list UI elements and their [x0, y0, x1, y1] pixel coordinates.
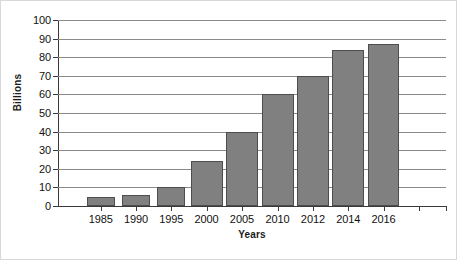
- x-axis-tick-mark: [384, 206, 385, 211]
- x-axis-tick-mark: [313, 206, 314, 211]
- x-axis-tick-mark: [171, 206, 172, 211]
- bar-chart-figure: Billions 0102030405060708090100 19851990…: [0, 0, 457, 260]
- bar: [157, 187, 185, 206]
- plot-area: [58, 20, 446, 206]
- bar: [297, 76, 329, 206]
- bar: [87, 197, 115, 206]
- x-axis-tick-mark: [419, 206, 420, 211]
- gridline: [58, 39, 446, 40]
- bar: [191, 161, 223, 206]
- x-axis-title: Years: [58, 229, 446, 240]
- x-axis-tick-mark: [278, 206, 279, 211]
- y-axis-tick-label: 100: [5, 14, 51, 26]
- x-axis-tick-mark: [101, 206, 102, 211]
- y-axis-tick-label: 70: [5, 70, 51, 82]
- x-axis-line: [58, 206, 447, 207]
- y-axis-tick-label: 40: [5, 126, 51, 138]
- bar: [262, 94, 294, 206]
- x-axis-tick-label: 2016: [371, 213, 395, 225]
- y-axis-tick-label: 90: [5, 33, 51, 45]
- y-axis-tick-label: 50: [5, 107, 51, 119]
- gridline: [58, 20, 446, 21]
- y-axis-tick-label: 20: [5, 163, 51, 175]
- x-axis-tick-mark: [136, 206, 137, 211]
- x-axis-tick-label: 2010: [266, 213, 290, 225]
- y-axis-tick-label: 60: [5, 88, 51, 100]
- bar: [332, 50, 364, 206]
- x-axis-tick-mark: [242, 206, 243, 211]
- x-axis-tick-mark: [207, 206, 208, 211]
- y-axis-tick-label: 10: [5, 181, 51, 193]
- bar: [368, 44, 400, 206]
- x-axis-tick-label: 2014: [336, 213, 360, 225]
- y-axis-tick-labels: 0102030405060708090100: [1, 1, 51, 260]
- x-axis-tick-label: 1995: [159, 213, 183, 225]
- x-axis-tick-label: 1990: [124, 213, 148, 225]
- y-axis-tick-label: 30: [5, 144, 51, 156]
- x-axis-tick-label: 1985: [89, 213, 113, 225]
- bar: [122, 195, 150, 206]
- bar: [226, 132, 258, 206]
- x-axis-tick-label: 2000: [195, 213, 219, 225]
- y-axis-tick-label: 80: [5, 51, 51, 63]
- x-axis-tick-mark: [348, 206, 349, 211]
- x-axis-tick-label: 2012: [301, 213, 325, 225]
- y-axis-tick-label: 0: [5, 200, 51, 212]
- x-axis-tick-label: 2005: [230, 213, 254, 225]
- x-axis-tick-mark: [446, 206, 447, 211]
